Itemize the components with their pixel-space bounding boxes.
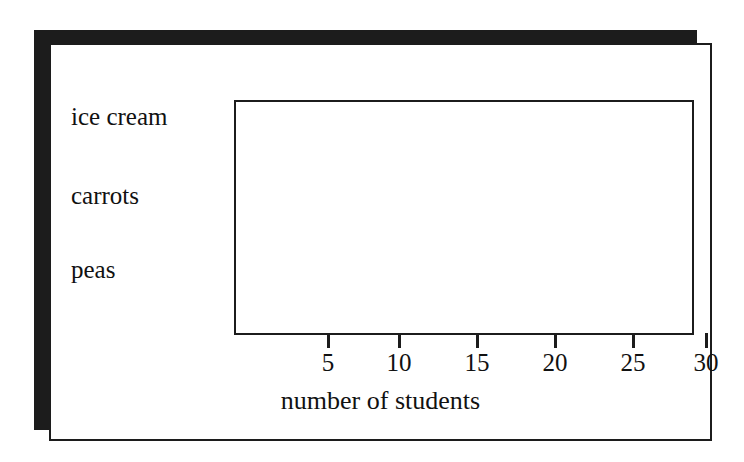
x-axis-tick-labels: 5 10 15 20 25 30 xyxy=(234,348,694,382)
plot-area xyxy=(234,100,694,335)
x-axis-tick-20 xyxy=(554,333,557,348)
x-axis-tick-30 xyxy=(705,333,708,348)
x-axis-tick-label-5: 5 xyxy=(298,348,358,378)
x-axis-ticks xyxy=(234,333,694,349)
x-axis-tick-label-15: 15 xyxy=(447,348,507,378)
x-axis-tick-label-30: 30 xyxy=(676,348,736,378)
x-axis-tick-label-25: 25 xyxy=(603,348,663,378)
x-axis-tick-label-10: 10 xyxy=(369,348,429,378)
x-axis-tick-label-20: 20 xyxy=(525,348,585,378)
x-axis-tick-5 xyxy=(327,333,330,348)
x-axis-title: number of students xyxy=(51,385,710,417)
category-label-peas: peas xyxy=(71,256,241,284)
category-label-ice-cream: ice cream xyxy=(71,103,241,131)
chart-card: ice cream carrots peas 5 10 15 20 25 30 … xyxy=(49,43,712,441)
x-axis-tick-15 xyxy=(476,333,479,348)
chart-screenshot: ice cream carrots peas 5 10 15 20 25 30 … xyxy=(0,0,744,462)
x-axis-tick-10 xyxy=(398,333,401,348)
category-label-carrots: carrots xyxy=(71,182,241,210)
x-axis-tick-25 xyxy=(632,333,635,348)
